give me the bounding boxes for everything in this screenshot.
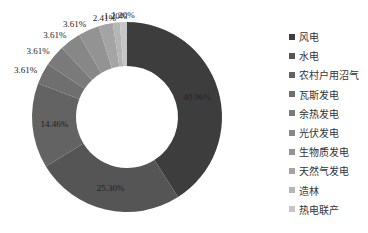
donut-slices [32,22,222,212]
legend-item: 热电联产 [289,200,359,219]
slice-label: 1.20% [112,10,136,20]
slice-label: 3.61% [27,46,51,56]
legend-label: 造林 [299,183,319,198]
legend-swatch-icon [289,72,295,78]
legend-swatch-icon [289,130,295,136]
legend-label: 天然气发电 [299,163,349,178]
legend-item: 造林 [289,181,359,200]
slice-label: 3.61% [63,19,87,29]
legend-swatch-icon [289,149,295,155]
legend-item: 光伏发电 [289,123,359,142]
legend-label: 风电 [299,29,319,44]
legend-label: 农村户用沼气 [299,67,359,82]
slice-label: 25.30% [97,183,125,193]
legend-label: 水电 [299,48,319,63]
legend-item: 生物质发电 [289,142,359,161]
slice-label: 14.46% [40,119,68,129]
legend-label: 热电联产 [299,202,339,217]
legend-swatch-icon [289,206,295,212]
legend-swatch-icon [289,187,295,193]
legend-item: 瓦斯发电 [289,85,359,104]
legend-label: 生物质发电 [299,144,349,159]
legend-swatch-icon [289,110,295,116]
legend-item: 天然气发电 [289,161,359,180]
legend-swatch-icon [289,168,295,174]
legend-swatch-icon [289,34,295,40]
legend-item: 风电 [289,27,359,46]
legend-item: 水电 [289,46,359,65]
legend-label: 瓦斯发电 [299,87,339,102]
legend-label: 光伏发电 [299,125,339,140]
legend-swatch-icon [289,53,295,59]
slice-label: 3.61% [43,30,67,40]
legend-item: 农村户用沼气 [289,65,359,84]
chart-legend: 风电 水电 农村户用沼气 瓦斯发电 余热发电 光伏发电 生物质发电 天然气发电 … [289,27,359,219]
slice-label: 3.61% [14,65,38,75]
legend-label: 余热发电 [299,106,339,121]
legend-swatch-icon [289,91,295,97]
legend-item: 余热发电 [289,104,359,123]
slice-label: 40.96% [183,92,211,102]
